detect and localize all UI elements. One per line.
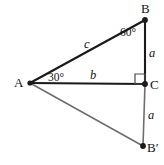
segment-c-to-bprime [143,84,145,146]
side-label-a-lower: a [148,109,154,122]
vertex-dot-c [142,81,148,87]
angle-label-30-degrees: 30° [48,72,64,84]
side-label-b: b [90,69,96,82]
geometry-figure: A B C B′ c b a a 30° 60° [0,0,164,165]
vertex-dot-bprime [140,143,146,149]
vertex-label-b: B [141,2,150,15]
segment-a-to-bprime [30,83,143,146]
side-label-c: c [84,38,90,51]
vertex-dot-a [27,80,32,85]
vertex-label-c: C [150,78,159,91]
vertex-label-a: A [14,76,23,89]
side-label-a-upper: a [149,47,155,60]
vertex-label-bprime: B′ [147,141,159,154]
vertex-dot-b [142,17,148,23]
angle-label-60-degrees: 60° [120,27,136,39]
figure-canvas [0,0,164,165]
